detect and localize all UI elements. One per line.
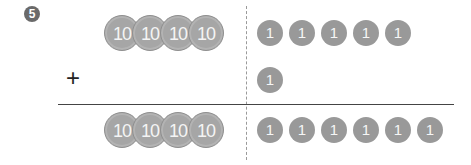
ten-coin: 10 bbox=[188, 15, 224, 51]
one-coin: 1 bbox=[321, 20, 347, 46]
place-value-divider bbox=[246, 6, 247, 160]
one-coin: 1 bbox=[289, 20, 315, 46]
problem-number-badge: 5 bbox=[24, 6, 40, 22]
result-ones-row: 1 1 1 1 1 1 bbox=[257, 117, 449, 143]
top-ones-row: 1 1 1 1 1 bbox=[257, 20, 417, 46]
plus-sign: + bbox=[66, 66, 80, 90]
one-coin: 1 bbox=[257, 67, 283, 93]
top-tens-row: 10 10 10 10 bbox=[104, 15, 216, 51]
one-coin: 1 bbox=[321, 117, 347, 143]
result-tens-row: 10 10 10 10 bbox=[104, 112, 216, 148]
addend-ones-row: 1 bbox=[257, 67, 289, 93]
one-coin: 1 bbox=[353, 20, 379, 46]
one-coin: 1 bbox=[353, 117, 379, 143]
one-coin: 1 bbox=[417, 117, 443, 143]
one-coin: 1 bbox=[385, 20, 411, 46]
one-coin: 1 bbox=[257, 20, 283, 46]
sum-line bbox=[58, 104, 454, 105]
one-coin: 1 bbox=[257, 117, 283, 143]
ten-coin: 10 bbox=[188, 112, 224, 148]
one-coin: 1 bbox=[385, 117, 411, 143]
one-coin: 1 bbox=[289, 117, 315, 143]
